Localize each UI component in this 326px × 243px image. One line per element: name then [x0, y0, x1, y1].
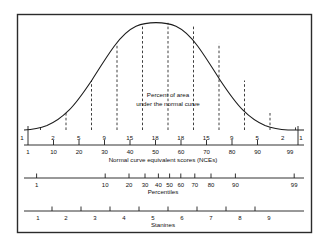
- stanine-tick-label: 4: [122, 215, 126, 221]
- nce-tick-label: 80: [229, 149, 236, 155]
- percent-label: 15: [126, 134, 133, 141]
- percentiles-axis: 1 10 20 30 40 50 60 70 80 90 99 Percenti…: [24, 174, 304, 196]
- percent-band-dividers: [41, 23, 296, 130]
- percent-label: 5: [256, 134, 260, 141]
- nce-tick-label: 60: [178, 149, 185, 155]
- nce-tick-label: 90: [254, 149, 261, 155]
- normal-curve-chart-svg: Percent of area under the normal curve 1…: [0, 0, 326, 243]
- percent-label: 18: [177, 134, 184, 141]
- percentile-tick-label: 60: [177, 182, 184, 188]
- percentile-tick-label: 30: [142, 182, 149, 188]
- percent-label: 9: [230, 134, 234, 141]
- figure-border: [18, 15, 312, 233]
- stanine-tick-label: 6: [180, 215, 184, 221]
- percent-label: 1: [299, 134, 303, 141]
- percentile-tick-label: 1: [35, 182, 39, 188]
- nce-tick-label: 50: [152, 149, 159, 155]
- percentile-tick-label: 99: [291, 182, 298, 188]
- nce-axis: 1 10 20 30 40 50 60 70 80 90 99 Normal c…: [24, 126, 304, 163]
- annotation-line-2: under the normal curve: [136, 100, 200, 107]
- nce-tick-label: 40: [127, 149, 134, 155]
- percent-label: 15: [203, 134, 210, 141]
- nce-tick-label: 10: [50, 149, 57, 155]
- stanine-tick-label: 8: [238, 215, 242, 221]
- stanine-tick-label: 3: [93, 215, 97, 221]
- percentile-tick-label: 10: [102, 182, 109, 188]
- nce-tick-label: 99: [287, 149, 294, 155]
- percent-label: 2: [51, 134, 55, 141]
- percentile-tick-label: 50: [166, 182, 173, 188]
- stanine-tick-label: 5: [151, 215, 155, 221]
- stanine-tick-label: 9: [267, 215, 271, 221]
- nce-tick-label: 20: [76, 149, 83, 155]
- nce-tick-label: 30: [101, 149, 108, 155]
- stanine-tick-label: 7: [209, 215, 213, 221]
- stanine-tick-label: 1: [36, 215, 40, 221]
- nce-tick-label: 70: [203, 149, 210, 155]
- stanines-axis: 1 2 3 4 5 6 7 8 9 Stanines: [24, 207, 304, 229]
- percentiles-axis-title: Percentiles: [148, 188, 179, 195]
- percentile-tick-label: 40: [155, 182, 162, 188]
- stanines-axis-title: Stanines: [151, 221, 175, 228]
- normal-curve-figure: Percent of area under the normal curve 1…: [0, 0, 326, 243]
- nce-axis-title: Normal curve equivalent scores (NCEs): [109, 156, 218, 163]
- percent-label: 5: [77, 134, 81, 141]
- nce-tick-label: 1: [26, 149, 30, 155]
- percentile-tick-label: 20: [126, 182, 133, 188]
- stanine-tick-label: 2: [64, 215, 68, 221]
- percentile-tick-label: 70: [191, 182, 198, 188]
- annotation-line-1: Percent of area: [147, 91, 190, 98]
- percent-label: 9: [103, 134, 107, 141]
- percent-label: 1: [20, 134, 24, 141]
- percentile-tick-label: 90: [232, 182, 239, 188]
- percentile-tick-label: 80: [208, 182, 215, 188]
- percent-label: 2: [281, 134, 285, 141]
- percent-of-area-labels: 1 2 5 9 15 18 18 15 9 5 2 1: [20, 134, 303, 141]
- percent-label: 18: [152, 134, 159, 141]
